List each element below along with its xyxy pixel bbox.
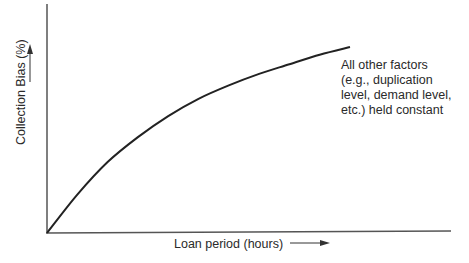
held-constant-annotation: All other factors (e.g., duplication lev… xyxy=(341,58,466,118)
chart-canvas xyxy=(0,0,469,263)
annotation-line: level, demand level, xyxy=(341,88,466,103)
y-axis-label: Collection Bias (%) xyxy=(14,39,28,145)
x-arrow-icon xyxy=(320,240,330,246)
annotation-line: (e.g., duplication xyxy=(341,73,466,88)
annotation-line: etc.) held constant xyxy=(341,103,466,118)
x-axis xyxy=(46,231,451,233)
x-axis-label: Loan period (hours) xyxy=(174,237,283,251)
collection-bias-curve xyxy=(47,47,350,233)
annotation-line: All other factors xyxy=(341,58,466,73)
